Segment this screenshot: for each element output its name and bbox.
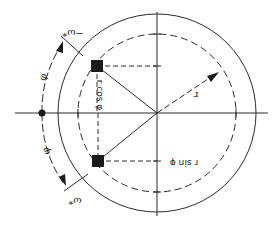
label-omega-lower: ω* (68, 196, 81, 207)
upper-point-square (91, 60, 103, 72)
lower-point-square (92, 155, 104, 167)
r-arrowhead (207, 72, 219, 82)
omega-lower-tick (64, 174, 88, 191)
label-phi-upper: φ (36, 72, 49, 82)
r-arrow (157, 73, 217, 113)
polar-diagram: r r cos φ r sin φ φ φ −ω* ω* (0, 0, 279, 230)
radius-to-lower-point (98, 113, 157, 161)
label-r-cos-phi: r cos φ (95, 80, 105, 111)
label-r: r (193, 90, 198, 101)
origin-dot (39, 110, 46, 117)
label-r-sin-phi: r sin φ (170, 158, 198, 168)
label-omega-upper: −ω* (62, 28, 84, 39)
radius-to-upper-point (97, 66, 157, 113)
phi-upper-arrowhead (56, 41, 63, 53)
phi-lower-arrowhead (59, 174, 66, 186)
label-phi-lower: φ (39, 146, 52, 156)
